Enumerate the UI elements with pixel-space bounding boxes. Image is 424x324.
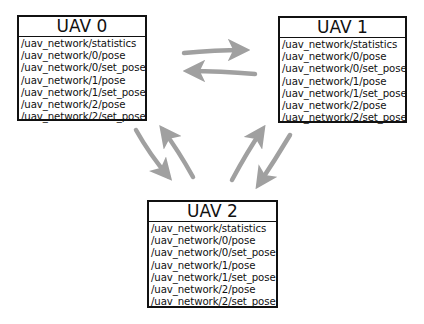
uav-2-node: UAV 2 /uav_network/statistics /uav_netwo… xyxy=(147,200,278,308)
topic-item: /uav_network/0/pose xyxy=(151,235,276,247)
topic-item: /uav_network/0/set_pose xyxy=(21,62,145,74)
topic-item: /uav_network/2/pose xyxy=(282,100,405,112)
uav-1-title: UAV 1 xyxy=(280,18,405,38)
topic-item: /uav_network/1/pose xyxy=(21,75,145,87)
topic-item: /uav_network/0/set_pose xyxy=(282,63,405,75)
topic-item: /uav_network/2/set_pose xyxy=(282,112,405,124)
uav-1-topic-list: /uav_network/statistics /uav_network/0/p… xyxy=(280,38,405,124)
uav-2-topic-list: /uav_network/statistics /uav_network/0/p… xyxy=(149,222,276,308)
arrow-uav1-to-uav0 xyxy=(189,71,255,74)
arrow-uav2-to-uav0 xyxy=(163,130,193,177)
uav-0-title: UAV 0 xyxy=(19,17,145,37)
topic-item: /uav_network/statistics xyxy=(151,223,276,235)
topic-item: /uav_network/2/pose xyxy=(21,99,145,111)
arrow-uav0-to-uav1 xyxy=(184,50,244,53)
topic-item: /uav_network/0/pose xyxy=(21,50,145,62)
arrow-uav2-to-uav1 xyxy=(232,130,262,180)
topic-item: /uav_network/2/pose xyxy=(151,284,276,296)
topic-item: /uav_network/1/set_pose xyxy=(21,87,145,99)
uav-1-node: UAV 1 /uav_network/statistics /uav_netwo… xyxy=(278,16,407,123)
uav-0-topic-list: /uav_network/statistics /uav_network/0/p… xyxy=(19,37,145,123)
topic-item: /uav_network/statistics xyxy=(21,38,145,50)
topic-item: /uav_network/0/set_pose xyxy=(151,247,276,259)
uav-0-node: UAV 0 /uav_network/statistics /uav_netwo… xyxy=(17,15,147,121)
topic-item: /uav_network/0/pose xyxy=(282,51,405,63)
arrow-uav1-to-uav2 xyxy=(259,135,290,184)
arrow-uav0-to-uav2 xyxy=(136,130,168,176)
topic-item: /uav_network/2/set_pose xyxy=(151,296,276,308)
topic-item: /uav_network/1/set_pose xyxy=(151,272,276,284)
topic-item: /uav_network/statistics xyxy=(282,39,405,51)
topic-item: /uav_network/1/pose xyxy=(282,76,405,88)
topic-item: /uav_network/2/set_pose xyxy=(21,111,145,123)
topic-item: /uav_network/1/set_pose xyxy=(282,88,405,100)
topic-item: /uav_network/1/pose xyxy=(151,260,276,272)
uav-2-title: UAV 2 xyxy=(149,202,276,222)
